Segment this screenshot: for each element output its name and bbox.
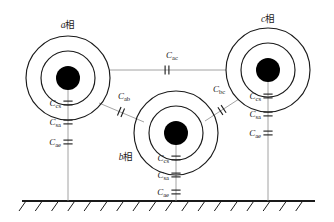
coupling-ac: Cac (110, 50, 226, 75)
ground-hatch-mark (133, 201, 140, 211)
ground-hatch-mark (35, 201, 42, 211)
capacitor-label-b-sa: Csa (157, 170, 169, 181)
capacitor-symbol-bc-plate-left (218, 107, 223, 115)
coupling-bc: Cbc (205, 84, 239, 121)
capacitor-label-b-ae: Cae (157, 187, 169, 198)
coupling-line-bc (205, 99, 239, 121)
capacitor-label-a-ae: Cae (49, 137, 61, 148)
ground-hatch-mark (19, 201, 26, 211)
capacitor-label-c-cs: Ccs (249, 91, 261, 102)
ground-hatch-mark (68, 201, 75, 211)
phase-c: CcsCsaCaec相 (226, 13, 310, 201)
ground-assembly (19, 201, 315, 211)
capacitor-label-b-cs: Ccs (157, 153, 169, 164)
phase-a: CcsCsaCaea相 (26, 19, 110, 201)
ground-hatch-mark (182, 201, 189, 211)
coupling-label-ab: Cab (118, 91, 131, 102)
coupling-line-ab (99, 103, 144, 122)
diagram-canvas: CacCabCbcCcsCsaCaea相CcsCsaCaeb相CcsCsaCae… (0, 0, 334, 222)
conductor-core-c (256, 58, 280, 82)
ground-hatch-mark (117, 201, 124, 211)
ground-hatch-mark (166, 201, 173, 211)
ground-hatch-mark (247, 201, 254, 211)
conductor-core-b (164, 121, 188, 145)
phase-b: CcsCsaCaeb相 (119, 91, 218, 201)
phase-label-b: b相 (119, 151, 134, 162)
phase-label-c: c相 (261, 13, 275, 24)
ground-hatch-mark (279, 201, 286, 211)
ground-hatch-mark (198, 201, 205, 211)
capacitor-label-a-cs: Ccs (49, 98, 61, 109)
ground-hatch-mark (263, 201, 270, 211)
ground-hatch-mark (231, 201, 238, 211)
coupling-label-ac: Cac (166, 50, 178, 61)
ground-hatch-mark (84, 201, 91, 211)
ground-hatch-mark (52, 201, 59, 211)
ground-hatch-mark (296, 201, 303, 211)
conductor-core-a (56, 66, 80, 90)
coupling-label-bc: Cbc (213, 84, 225, 95)
capacitor-label-c-ae: Cae (249, 128, 261, 139)
ground-hatch-mark (149, 201, 156, 211)
phase-label-a: a相 (61, 19, 76, 30)
capacitance-diagram: CacCabCbcCcsCsaCaea相CcsCsaCaeb相CcsCsaCae… (0, 0, 334, 222)
ground-hatch-mark (100, 201, 107, 211)
ground-hatch-mark (214, 201, 221, 211)
capacitor-symbol-bc-plate-right (221, 105, 226, 113)
